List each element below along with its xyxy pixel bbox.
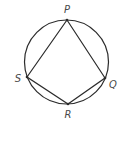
vertex-label-q: Q [109,79,117,90]
quadrilateral-pqrs [27,20,105,104]
vertex-point-r [67,103,70,106]
vertex-point-p [66,19,69,22]
vertex-point-s [26,76,29,79]
vertex-label-r: R [65,109,72,120]
circle-quadrilateral-diagram: P Q R S [0,0,120,145]
vertex-label-s: S [15,73,22,84]
vertex-label-p: P [64,4,71,15]
vertex-point-q [104,77,107,80]
